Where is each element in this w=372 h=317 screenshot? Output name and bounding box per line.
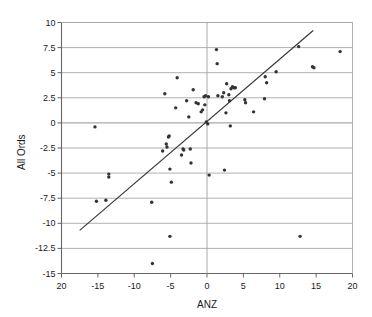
data-point bbox=[338, 50, 341, 53]
data-point bbox=[93, 125, 96, 128]
data-point bbox=[165, 142, 168, 145]
data-point bbox=[312, 66, 315, 69]
data-point bbox=[187, 115, 190, 118]
data-point bbox=[234, 86, 237, 89]
data-point bbox=[189, 147, 192, 150]
data-point bbox=[264, 75, 267, 78]
x-tick-marks-group bbox=[62, 274, 353, 278]
data-point bbox=[104, 199, 107, 202]
y-tick-label: -2.5 bbox=[40, 143, 56, 153]
trendline bbox=[80, 31, 314, 231]
data-point bbox=[207, 173, 210, 176]
x-tick-label: 15 bbox=[311, 281, 321, 291]
data-point bbox=[215, 48, 218, 51]
data-point bbox=[243, 98, 246, 101]
y-tick-label: 2.5 bbox=[43, 93, 56, 103]
y-tick-label: 10 bbox=[45, 18, 55, 28]
data-point bbox=[168, 235, 171, 238]
data-point bbox=[95, 200, 98, 203]
data-point bbox=[204, 94, 207, 97]
data-point bbox=[107, 175, 110, 178]
data-point bbox=[167, 134, 170, 137]
x-tick-label: 20 bbox=[347, 281, 357, 291]
data-point bbox=[168, 167, 171, 170]
y-tick-label: -10 bbox=[42, 218, 55, 228]
x-tick-label: 10 bbox=[275, 281, 285, 291]
data-point bbox=[189, 161, 192, 164]
y-tick-label: -15 bbox=[42, 269, 55, 279]
data-point bbox=[150, 201, 153, 204]
x-tick-label: 20 bbox=[56, 281, 66, 291]
data-point bbox=[107, 172, 110, 175]
data-point bbox=[203, 103, 206, 106]
data-point bbox=[224, 111, 227, 114]
data-point bbox=[197, 102, 200, 105]
x-tick-label: -15 bbox=[91, 281, 104, 291]
y-axis-title: All Ords bbox=[16, 134, 27, 170]
data-point bbox=[252, 110, 255, 113]
data-point bbox=[180, 153, 183, 156]
trendline-group bbox=[80, 31, 314, 231]
data-point bbox=[244, 101, 247, 104]
data-point bbox=[222, 91, 225, 94]
data-point bbox=[191, 88, 194, 91]
data-points-group bbox=[93, 45, 342, 265]
data-point bbox=[182, 148, 185, 151]
y-tick-label: 7.5 bbox=[43, 43, 56, 53]
y-tick-label: -7.5 bbox=[40, 193, 56, 203]
data-point bbox=[151, 262, 154, 265]
data-point bbox=[207, 95, 210, 98]
x-tick-label: -5 bbox=[167, 281, 175, 291]
y-tick-label: 0 bbox=[50, 118, 55, 128]
scatter-chart: 107.552.50-2.5-5-7.5-10-12.5-15 20-15-10… bbox=[0, 0, 372, 317]
y-tick-label: -12.5 bbox=[35, 243, 56, 253]
x-tick-label: -10 bbox=[128, 281, 141, 291]
data-point bbox=[165, 145, 168, 148]
data-point bbox=[229, 124, 232, 127]
data-point bbox=[206, 122, 209, 125]
data-point bbox=[223, 168, 226, 171]
y-tick-label: 5 bbox=[50, 68, 55, 78]
x-tick-label: 5 bbox=[241, 281, 246, 291]
data-point bbox=[175, 76, 178, 79]
data-point bbox=[227, 93, 230, 96]
data-point bbox=[228, 99, 231, 102]
data-point bbox=[221, 95, 224, 98]
data-point bbox=[263, 97, 266, 100]
data-point bbox=[265, 81, 268, 84]
data-point bbox=[161, 149, 164, 152]
plot-canvas bbox=[0, 0, 372, 317]
data-point bbox=[170, 180, 173, 183]
data-point bbox=[201, 108, 204, 111]
data-point bbox=[185, 99, 188, 102]
x-axis-title: ANZ bbox=[197, 299, 217, 310]
data-point bbox=[297, 45, 300, 48]
y-tick-label: -5 bbox=[47, 168, 55, 178]
y-tick-marks-group bbox=[58, 23, 62, 274]
data-point bbox=[174, 106, 177, 109]
data-point bbox=[163, 92, 166, 95]
data-point bbox=[225, 82, 228, 85]
data-point bbox=[215, 62, 218, 65]
data-point bbox=[274, 70, 277, 73]
data-point bbox=[298, 235, 301, 238]
x-tick-label: 0 bbox=[204, 281, 209, 291]
data-point bbox=[216, 94, 219, 97]
